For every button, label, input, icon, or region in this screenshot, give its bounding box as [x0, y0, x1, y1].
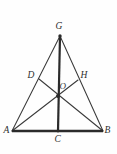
point-label-H: H — [81, 71, 88, 81]
point-label-A: A — [4, 126, 10, 136]
point-label-B: B — [105, 126, 111, 136]
geometry-figure: G A B C D H O — [0, 0, 117, 154]
segment-AH — [12, 80, 78, 131]
point-label-O: O — [60, 82, 67, 91]
vertex-dot-G — [58, 34, 61, 37]
point-label-G: G — [56, 22, 63, 32]
vertex-dot-C — [57, 130, 60, 133]
segment-BD — [39, 79, 103, 131]
segment-GB — [60, 36, 103, 131]
segment-AG — [12, 36, 60, 131]
point-label-C: C — [55, 135, 61, 145]
vertex-dot-O — [56, 94, 60, 98]
point-label-D: D — [28, 71, 35, 81]
